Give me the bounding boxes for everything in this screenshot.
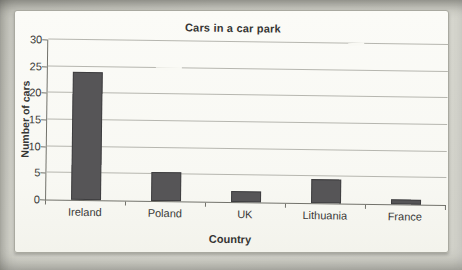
- x-tick-mark-5: [445, 206, 446, 210]
- y-tick-label-25: 25: [18, 60, 42, 72]
- x-tick-mark-2: [205, 203, 206, 207]
- x-tick-mark-0: [45, 200, 46, 204]
- x-category-label-poland: Poland: [125, 207, 205, 220]
- y-tick-mark-10: [41, 146, 46, 147]
- y-tick-label-0: 0: [16, 193, 40, 205]
- y-tick-label-20: 20: [17, 86, 41, 98]
- y-tick-mark-20: [42, 93, 47, 94]
- gridline-20: [48, 92, 448, 99]
- photo-scratch: [156, 67, 182, 70]
- gridline-10: [47, 145, 447, 152]
- y-tick-mark-30: [42, 39, 47, 40]
- y-tick-label-15: 15: [17, 113, 41, 125]
- gridline-15: [47, 118, 447, 125]
- y-tick-mark-25: [42, 66, 47, 67]
- x-category-label-ireland: Ireland: [45, 205, 125, 218]
- bar-lithuania: [311, 179, 341, 203]
- bar-ireland: [71, 72, 103, 200]
- gridline-25: [48, 65, 448, 72]
- y-tick-mark-0: [40, 199, 45, 200]
- photo-scratch: [348, 42, 364, 46]
- y-tick-mark-15: [41, 119, 46, 120]
- scanned-page: Cars in a car park Number of cars Countr…: [0, 0, 462, 270]
- y-tick-label-5: 5: [16, 166, 40, 178]
- x-tick-mark-1: [125, 202, 126, 206]
- x-tick-mark-4: [365, 205, 366, 209]
- bar-poland: [151, 172, 181, 202]
- axis-labels-layer: FranceLithuaniaUKPolandIreland3025201510…: [17, 8, 450, 14]
- x-tick-mark-3: [285, 204, 286, 208]
- y-tick-label-10: 10: [17, 140, 41, 152]
- gridline-30: [48, 38, 448, 45]
- y-tick-mark-5: [40, 173, 45, 174]
- chart-title: Cars in a car park: [16, 19, 449, 37]
- bar-uk: [231, 191, 261, 202]
- bar-france: [391, 199, 421, 205]
- plot-area: [45, 39, 448, 206]
- chart-panel: Cars in a car park Number of cars Countr…: [14, 10, 449, 253]
- x-category-label-lithuania: Lithuania: [285, 209, 365, 222]
- gridline-5: [46, 172, 446, 179]
- y-tick-label-30: 30: [18, 33, 42, 45]
- chart-tilt-wrapper: Cars in a car park Number of cars Countr…: [13, 8, 449, 255]
- x-axis-title: Country: [13, 230, 446, 248]
- x-category-label-france: France: [365, 210, 445, 223]
- x-category-label-uk: UK: [205, 208, 285, 221]
